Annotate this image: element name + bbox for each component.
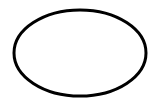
diagram-canvas (0, 0, 158, 106)
ellipse-shape (14, 10, 146, 96)
diagram-svg (0, 0, 158, 106)
